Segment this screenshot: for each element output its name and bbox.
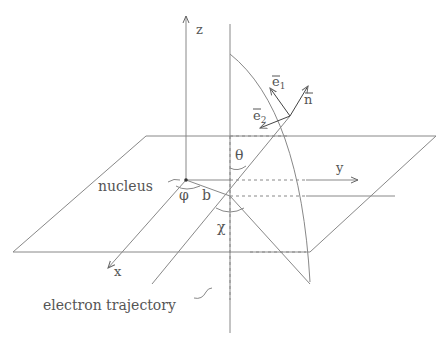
e1-label: e1 xyxy=(272,74,285,91)
theta-label: θ xyxy=(235,147,243,163)
n-label: n xyxy=(304,92,313,107)
x-label: x xyxy=(114,264,122,279)
e2-label: e2 xyxy=(253,108,266,125)
z-label: z xyxy=(196,22,203,37)
chi-label: χ xyxy=(217,219,226,235)
electron-trajectory-label: electron trajectory xyxy=(43,297,176,313)
scattering-geometry-diagram: z y x e1 e2 n θ φ b χ nucleus electron t… xyxy=(0,0,446,346)
b-label: b xyxy=(202,187,211,203)
nucleus-point xyxy=(184,178,188,182)
phi-label: φ xyxy=(179,187,189,203)
nucleus-label: nucleus xyxy=(98,178,153,194)
y-label: y xyxy=(335,160,344,175)
e1-vector xyxy=(270,88,290,116)
